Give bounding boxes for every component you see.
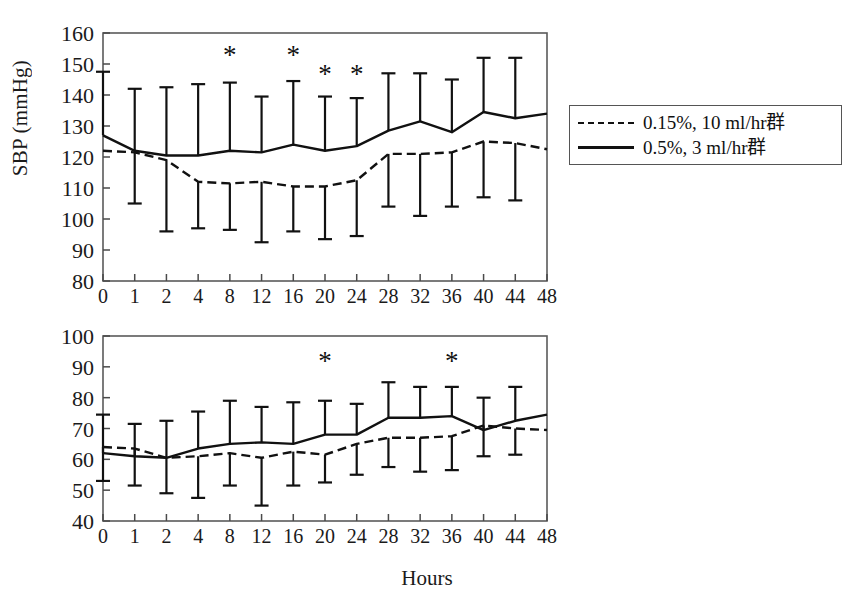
x-axis-title: Hours: [0, 566, 854, 591]
error-bar: [223, 401, 237, 444]
x-axis-tick-label: 48: [537, 525, 557, 547]
y-axis-tick-label: 80: [72, 269, 94, 294]
y-axis-tick-label: 160: [61, 21, 94, 46]
significance-asterisk: *: [445, 346, 459, 376]
sbp-legend-row-solid: 0.5%, 3 ml/hr群: [578, 135, 831, 160]
sbp-legend-label-dashed: 0.15%, 10 ml/hr群: [643, 113, 786, 133]
error-bar: [508, 429, 522, 455]
error-bar: [381, 438, 395, 467]
error-bar: [255, 458, 269, 506]
error-bar: [477, 142, 491, 198]
sbp-chart-panel: SBP (mmHg) 80901001101201301401501600124…: [0, 0, 854, 310]
error-bar: [159, 458, 173, 493]
error-bar: [350, 404, 364, 435]
error-bar: [350, 444, 364, 475]
error-bar: [413, 387, 427, 418]
significance-asterisk: *: [287, 40, 301, 70]
error-bar: [350, 98, 364, 146]
dashed-line-swatch-icon: [578, 122, 634, 124]
y-axis-tick-label: 130: [61, 114, 94, 139]
error-bar: [381, 382, 395, 417]
error-bar: [445, 80, 459, 133]
y-axis-tick-label: 50: [72, 478, 94, 503]
y-axis-tick-label: 100: [61, 207, 94, 232]
error-bar: [255, 182, 269, 242]
significance-asterisk: *: [223, 40, 237, 70]
error-bar: [223, 83, 237, 151]
dbp-plot-area: 4050607080901000124812162024283236404448…: [0, 300, 854, 606]
x-axis-tick-label: 36: [442, 525, 462, 547]
error-bar: [191, 182, 205, 229]
error-bar: [413, 73, 427, 121]
error-bar: [191, 84, 205, 155]
sbp-legend-row-dashed: 0.15%, 10 ml/hr群: [578, 110, 831, 135]
y-axis-tick-label: 70: [72, 417, 94, 442]
error-bar: [223, 183, 237, 230]
error-bar: [286, 452, 300, 486]
error-bar: [381, 154, 395, 207]
x-axis-tick-label: 28: [378, 525, 398, 547]
x-axis-tick-label: 24: [347, 525, 367, 547]
y-axis-tick-label: 80: [72, 386, 94, 411]
error-bar: [159, 87, 173, 155]
error-bar: [508, 387, 522, 421]
error-bar: [223, 453, 237, 485]
x-axis-tick-label: 0: [98, 525, 108, 547]
error-bar: [508, 58, 522, 118]
error-bar: [286, 402, 300, 444]
error-bar: [445, 387, 459, 416]
dbp-chart-panel: DBP (mmHg) 40506070809010001248121620242…: [0, 300, 854, 606]
x-axis-tick-label: 16: [283, 525, 303, 547]
sbp-legend: 0.15%, 10 ml/hr群 0.5%, 3 ml/hr群: [569, 105, 842, 165]
y-axis-tick-label: 110: [62, 176, 94, 201]
error-bar: [477, 58, 491, 112]
y-axis-tick-label: 40: [72, 509, 94, 534]
error-bar: [318, 97, 332, 151]
sbp-legend-label-solid: 0.5%, 3 ml/hr群: [643, 138, 767, 158]
y-axis-tick-label: 140: [61, 83, 94, 108]
figure-root: SBP (mmHg) 80901001101201301401501600124…: [0, 0, 854, 606]
error-bar: [318, 401, 332, 435]
x-axis-tick-label: 12: [252, 525, 272, 547]
x-axis-tick-label: 44: [505, 525, 525, 547]
y-axis-tick-label: 150: [61, 52, 94, 77]
error-bar: [413, 154, 427, 216]
error-bar: [445, 436, 459, 470]
error-bar: [191, 456, 205, 498]
x-axis-tick-label: 8: [225, 525, 235, 547]
y-axis-tick-label: 100: [61, 324, 94, 349]
y-axis-tick-label: 90: [72, 238, 94, 263]
error-bar: [318, 186, 332, 239]
error-bar: [128, 89, 142, 151]
error-bar: [159, 421, 173, 458]
error-bar: [128, 424, 142, 456]
x-axis-tick-label: 2: [161, 525, 171, 547]
error-bar: [318, 455, 332, 483]
y-axis-tick-label: 90: [72, 355, 94, 380]
error-bar: [191, 412, 205, 449]
x-axis-tick-label: 32: [410, 525, 430, 547]
x-axis-tick-label: 4: [193, 525, 203, 547]
significance-asterisk: *: [318, 346, 332, 376]
significance-asterisk: *: [318, 59, 332, 89]
error-bar: [413, 438, 427, 472]
x-axis-tick-label: 1: [130, 525, 140, 547]
error-bar: [508, 143, 522, 200]
error-bar: [255, 97, 269, 153]
x-axis-tick-label: 40: [474, 525, 494, 547]
error-bar: [255, 407, 269, 442]
significance-asterisk: *: [350, 59, 364, 89]
error-bar: [381, 73, 395, 130]
error-bar: [350, 180, 364, 236]
y-axis-tick-label: 120: [61, 145, 94, 170]
solid-line-swatch-icon: [578, 146, 634, 149]
error-bar: [159, 160, 173, 231]
error-bar: [286, 186, 300, 231]
x-axis-tick-label: 20: [315, 525, 335, 547]
error-bar: [128, 152, 142, 203]
y-axis-tick-label: 60: [72, 447, 94, 472]
error-bar: [445, 152, 459, 206]
error-bar: [286, 81, 300, 145]
